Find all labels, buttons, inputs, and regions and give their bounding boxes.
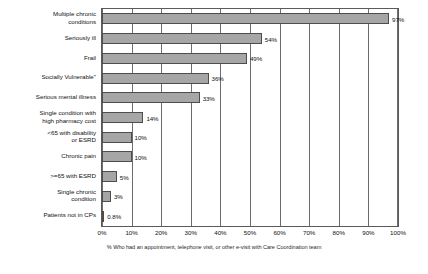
category-label: Chronic pain: [61, 152, 96, 159]
bar-value-label: 14%: [146, 114, 158, 121]
bar-value-label: 10%: [135, 153, 147, 160]
bar[interactable]: [102, 73, 209, 84]
category-label: Single condition with high pharmacy cost: [40, 109, 96, 124]
bar[interactable]: [102, 191, 111, 202]
x-tick-label: 100%: [390, 229, 406, 236]
category-label: Multiple chronic conditions: [53, 10, 96, 25]
table-row: 10%: [102, 132, 398, 143]
table-row: 36%: [102, 73, 398, 84]
bar[interactable]: [102, 112, 143, 123]
category-label: Serious mental illness: [36, 93, 96, 100]
table-row: 10%: [102, 151, 398, 162]
bar-value-label: 49%: [250, 55, 262, 62]
bar[interactable]: [102, 33, 262, 44]
bar-value-label: 0.8%: [107, 213, 121, 220]
x-tick-label: 60%: [273, 229, 285, 236]
x-tick-label: 90%: [362, 229, 374, 236]
category-label: Patients not in CPs: [43, 211, 96, 218]
x-tick-label: 50%: [244, 229, 256, 236]
category-label: <65 with disability or ESRD: [47, 129, 96, 144]
x-tick-label: 40%: [214, 229, 226, 236]
table-row: 3%: [102, 191, 398, 202]
bar-value-label: 33%: [203, 94, 215, 101]
table-row: 5%: [102, 171, 398, 182]
category-label: Socially Vulnerable": [41, 73, 96, 80]
category-label: Seriously ill: [65, 34, 96, 41]
chart-caption: % Who had an appointment, telephone visi…: [0, 244, 428, 250]
bar-value-label: 54%: [265, 35, 277, 42]
category-label: >=65 with ESRD: [50, 172, 96, 179]
category-label: Frail: [84, 54, 96, 61]
table-row: 54%: [102, 33, 398, 44]
bar[interactable]: [102, 53, 247, 64]
bar[interactable]: [102, 13, 389, 24]
x-tick-label: 0%: [98, 229, 107, 236]
x-axis-tick-labels: 0%10%20%30%40%50%60%70%80%90%100%: [101, 229, 399, 241]
bar-rows: 97%54%49%36%33%14%10%10%5%3%0.8%: [102, 9, 398, 226]
x-tick-label: 20%: [155, 229, 167, 236]
bar[interactable]: [102, 171, 117, 182]
table-row: 97%: [102, 13, 398, 24]
x-tick-label: 80%: [333, 229, 345, 236]
category-axis-labels: Multiple chronic conditionsSeriously ill…: [0, 8, 99, 227]
bar[interactable]: [102, 132, 132, 143]
bar[interactable]: [102, 211, 104, 222]
bar-value-label: 5%: [120, 173, 129, 180]
bar[interactable]: [102, 92, 200, 103]
plot-area: 97%54%49%36%33%14%10%10%5%3%0.8%: [101, 8, 399, 227]
table-row: 0.8%: [102, 211, 398, 222]
table-row: 14%: [102, 112, 398, 123]
bar-value-label: 36%: [212, 75, 224, 82]
x-tick-label: 30%: [185, 229, 197, 236]
bar-value-label: 97%: [392, 15, 404, 22]
bar-value-label: 3%: [114, 193, 123, 200]
table-row: 49%: [102, 53, 398, 64]
category-label: Single chronic condition: [57, 188, 96, 203]
chart-container: Multiple chronic conditionsSeriously ill…: [0, 0, 428, 274]
x-tick-label: 10%: [125, 229, 137, 236]
table-row: 33%: [102, 92, 398, 103]
x-tick-label: 70%: [303, 229, 315, 236]
bar[interactable]: [102, 151, 132, 162]
bar-value-label: 10%: [135, 134, 147, 141]
